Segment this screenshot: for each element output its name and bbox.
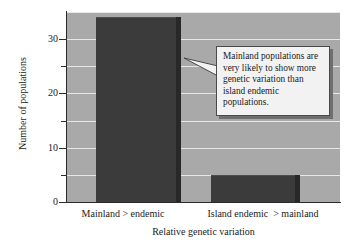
callout-text: Mainland populations are very likely to … — [223, 51, 324, 109]
y-axis-title: Number of populations — [17, 29, 28, 179]
bar-top-highlight — [211, 175, 300, 176]
y-tick-label-0: 0 — [53, 197, 58, 207]
x-tick-label-mainland-greater-than-endemic: Mainland > endemic — [66, 208, 180, 220]
callout-pointer-tail — [184, 56, 218, 78]
y-tick-label-10: 10 — [48, 143, 58, 153]
y-tick-20 — [59, 93, 67, 94]
y-tick-0 — [59, 202, 67, 203]
annotation-callout[interactable]: Mainland populations are very likely to … — [216, 46, 330, 116]
bar-mainland-greater-than-endemic[interactable] — [96, 17, 181, 202]
bar-side-shadow — [295, 175, 300, 202]
y-tick-15 — [61, 121, 67, 122]
y-tick-25 — [61, 66, 67, 67]
bar-island-endemic-greater-than-mainland[interactable] — [211, 175, 300, 202]
x-tick-label-island-endemic-greater-than-mainland: Island endemic > mainland — [187, 208, 339, 220]
y-tick-30 — [59, 39, 67, 40]
bar-top-highlight — [96, 17, 181, 18]
x-axis-line — [66, 202, 341, 203]
callout-box: Mainland populations are very likely to … — [216, 46, 330, 116]
y-tick-10 — [59, 148, 67, 149]
y-tick-label-20: 20 — [48, 88, 58, 98]
y-tick-label-30: 30 — [48, 34, 58, 44]
gridline-35 — [67, 12, 340, 13]
bar-chart-figure: 30 20 10 0 Number of populations Mainlan… — [0, 0, 351, 247]
x-axis-title: Relative genetic variation — [67, 226, 340, 238]
y-tick-5 — [61, 175, 67, 176]
bar-side-shadow — [176, 17, 181, 202]
